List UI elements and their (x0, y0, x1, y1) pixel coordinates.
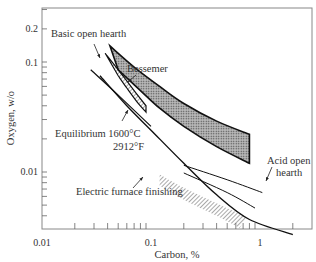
label-basic-open-hearth: Basic open hearth (51, 28, 127, 39)
x-tick-label: 0.01 (33, 237, 51, 248)
label-equilibrium-f: 2912°F (113, 141, 144, 152)
x-tick-label: 1 (258, 237, 263, 248)
y-tick-label: 0.1 (26, 57, 39, 68)
y-axis-title: Oxygen, w/o (5, 91, 16, 145)
label-electric-furnace: Electric furnace finishing (76, 186, 183, 197)
label-bessemer: Bessemer (127, 63, 168, 74)
chart: 0.01 0.1 1 0.01 0.1 0.2 Carbon, % Oxygen… (0, 0, 316, 262)
line-equilibrium (100, 76, 293, 235)
y-tick-label: 0.2 (26, 23, 39, 34)
x-axis-title: Carbon, % (155, 249, 200, 260)
label-equilibrium: Equilibrium 1600°C (55, 128, 141, 139)
x-tick-label: 0.1 (145, 237, 158, 248)
y-tick-label: 0.01 (21, 166, 39, 177)
label-acid-open-hearth: Acid open (267, 155, 311, 166)
label-acid-open-hearth-2: hearth (276, 167, 303, 178)
line-acid-open-hearth-1 (184, 165, 262, 192)
